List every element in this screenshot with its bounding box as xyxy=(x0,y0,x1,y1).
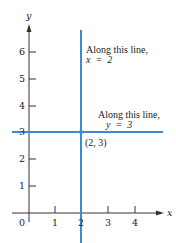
y-axis-arrow-icon xyxy=(27,24,32,32)
x-tick-label: 4 xyxy=(132,217,138,228)
intersection-label: (2, 3) xyxy=(85,137,107,149)
x-tick-label: 3 xyxy=(105,217,111,228)
horizontal-line-annotation-line2: y = 3 xyxy=(105,119,132,130)
y-tick-label: 4 xyxy=(19,100,25,111)
y-tick-label: 2 xyxy=(19,153,25,164)
coordinate-plane: y x 0 1 2 3 4 5 6 1 2 3 4 Along this lin… xyxy=(0,0,176,243)
x-tick-label: 2 xyxy=(78,217,84,228)
x-axis-arrow-icon xyxy=(156,211,164,216)
y-tick-label: 5 xyxy=(19,73,25,84)
x-axis-label: x xyxy=(167,207,173,218)
y-ticks xyxy=(29,52,36,186)
intersection-point xyxy=(79,130,83,134)
x-tick-label: 1 xyxy=(52,217,58,228)
y-tick-label: 1 xyxy=(19,180,25,191)
vertical-line-annotation-line2: x = 2 xyxy=(85,54,112,65)
x-ticks xyxy=(55,206,135,213)
y-tick-label: 3 xyxy=(19,126,25,137)
origin-label: 0 xyxy=(19,217,25,228)
y-axis-label: y xyxy=(25,10,32,21)
y-tick-label: 6 xyxy=(19,46,25,57)
